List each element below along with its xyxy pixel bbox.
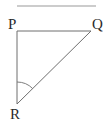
vertex-label-q: Q <box>92 16 103 32</box>
triangle-pqr-diagram: P Q R <box>0 0 112 122</box>
vertex-label-r: R <box>10 106 20 122</box>
vertex-label-p: P <box>8 16 16 32</box>
edge-rq-hypotenuse <box>17 31 91 104</box>
angle-r-marker <box>17 82 33 89</box>
